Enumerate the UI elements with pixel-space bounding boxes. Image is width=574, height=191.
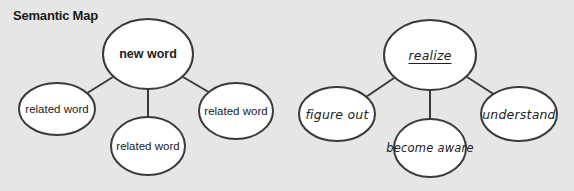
related-node-2: related word [111,134,185,158]
related-node-label: related word [25,103,88,115]
related-node-3: related word [199,99,273,123]
related-node-1: related word [19,97,95,121]
center-node-label: new word [119,47,177,61]
connector-left [84,77,113,95]
related-node-label: related word [116,140,179,152]
semantic-map-canvas [0,0,574,191]
connector-right [467,77,495,95]
center-node-label: realize [408,48,451,63]
connector-left [366,78,394,97]
related-node-figure-out: figure out [299,101,375,127]
center-node-new-word: new word [103,40,193,68]
related-node-understand: understand [481,101,557,127]
related-node-become-aware: become aware [394,135,466,161]
connector-right [183,77,212,94]
related-node-label: related word [204,105,267,117]
related-node-label: understand [482,107,556,122]
related-node-label: become aware [386,141,473,155]
center-node-realize: realize [384,41,476,69]
related-node-label: figure out [305,107,368,122]
